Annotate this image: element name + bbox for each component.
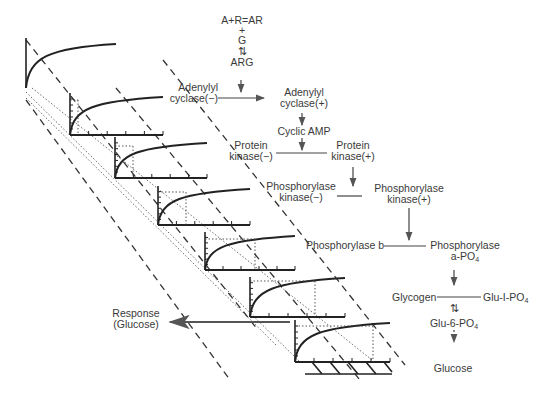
equilibrium-arrows-glu: ⇅ bbox=[446, 303, 462, 314]
protein-kinase-active: Protein kinase(+) bbox=[328, 140, 378, 162]
response-plot-3 bbox=[158, 186, 250, 225]
response-plot-0 bbox=[26, 38, 116, 88]
glucose: Glucose bbox=[428, 363, 478, 374]
phosphorylase-a: Phosphorylase a-PO4 bbox=[428, 240, 502, 265]
response-plot-5 bbox=[250, 277, 345, 317]
receptor-complex: A+R=AR + G ⇅ ARG bbox=[214, 15, 270, 68]
cyclic-amp: Cyclic AMP bbox=[274, 126, 334, 137]
arg-complex: ARG bbox=[214, 57, 270, 68]
response-label: Response (Glucose) bbox=[106, 308, 166, 330]
glycogen: Glycogen bbox=[392, 292, 436, 303]
adenylyl-cyclase-inactive: Adenylyl cyclase(−) bbox=[162, 82, 218, 104]
phosphorylase-kinase-active: Phosphorylase kinase(+) bbox=[372, 183, 446, 205]
signaling-cascade-diagram: A+R=AR + G ⇅ ARG Adenylyl cyclase(−) Ade… bbox=[0, 0, 557, 398]
glucose-1-phosphate: Glu-I-PO4 bbox=[483, 292, 539, 306]
response-plot-2 bbox=[115, 137, 207, 178]
adenylyl-cyclase-active: Adenylyl cyclase(+) bbox=[274, 87, 334, 109]
protein-kinase-inactive: Protein kinase(−) bbox=[226, 140, 276, 162]
hatched-base bbox=[305, 362, 392, 374]
phosphorylase-kinase-inactive: Phosphorylase kinase(−) bbox=[264, 181, 338, 203]
response-plot-1 bbox=[70, 93, 163, 135]
glucose-6-phosphate: Glu-6-PO4 bbox=[424, 318, 484, 332]
response-plot-6 bbox=[295, 320, 390, 362]
phosphorylase-b: Phosphorylase b bbox=[305, 240, 385, 251]
